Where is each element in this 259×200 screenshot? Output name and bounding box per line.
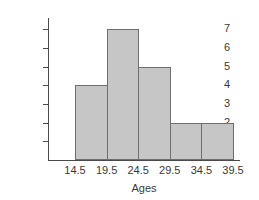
x-tick-label: 39.5 <box>216 165 250 176</box>
plot-area: 1234567 14.519.524.529.534.539.5 Ages <box>48 18 240 160</box>
histogram-chart: Frequency 1234567 14.519.524.529.534.539… <box>0 0 259 200</box>
x-axis-line <box>48 160 240 161</box>
histogram-bar <box>170 123 203 160</box>
bar-series <box>48 18 240 160</box>
x-tick-label: 34.5 <box>184 165 218 176</box>
histogram-bar <box>201 123 234 160</box>
histogram-bar <box>138 67 171 160</box>
x-tick-label: 24.5 <box>121 165 155 176</box>
x-tick-label: 29.5 <box>153 165 187 176</box>
histogram-bar <box>107 29 140 160</box>
x-tick-label: 19.5 <box>90 165 124 176</box>
histogram-bar <box>75 85 108 160</box>
x-axis-title: Ages <box>48 182 240 194</box>
x-tick-label: 14.5 <box>58 165 92 176</box>
